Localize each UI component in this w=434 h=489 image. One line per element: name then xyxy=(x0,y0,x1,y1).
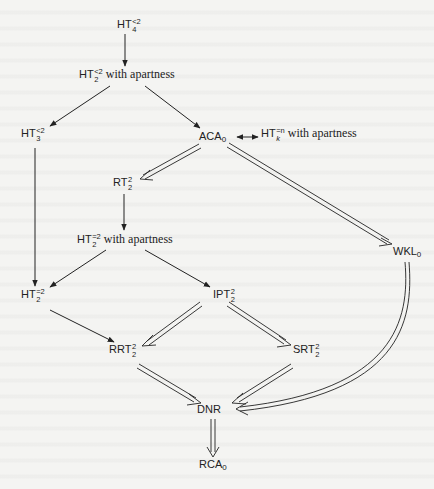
node-supsub: 22 xyxy=(128,176,132,191)
node-sub: 0 xyxy=(417,250,421,259)
node-base: RRT xyxy=(109,344,131,355)
edge-ht2apart-to-ht3 xyxy=(50,86,110,126)
edge-dnr-to-rca0-double xyxy=(207,419,219,457)
node-ht2-eq2: HT=22 xyxy=(21,288,45,303)
node-base: ACA xyxy=(199,131,222,142)
edge-rrt22-to-dnr-double xyxy=(137,364,201,405)
node-base: HT xyxy=(77,234,92,245)
node-ht3-lt2: HT<23 xyxy=(21,127,45,142)
node-supsub: <23 xyxy=(36,127,45,142)
edge-ipt22-to-rrt22-double xyxy=(142,302,202,346)
node-supsub: 22 xyxy=(231,288,235,303)
node-rca0: RCA0 xyxy=(199,459,227,472)
edge-aca0-to-rt22-double xyxy=(140,144,201,180)
node-base: DNR xyxy=(197,404,221,415)
node-dnr: DNR xyxy=(197,404,221,415)
node-sub: 2 xyxy=(315,351,319,359)
node-supsub: =22 xyxy=(92,233,101,248)
node-sub: 0 xyxy=(222,135,226,144)
node-rt22: RT22 xyxy=(113,176,132,191)
edge-wkl0-to-dnr-double-curved xyxy=(236,262,410,415)
node-base: HT xyxy=(79,69,94,80)
node-htk-eqn-with-apartness: HT=nkwith apartness xyxy=(261,127,357,142)
node-supsub: 22 xyxy=(132,343,136,358)
node-aca0: ACA0 xyxy=(199,131,226,144)
node-sub: 3 xyxy=(36,135,45,143)
node-sub: 4 xyxy=(132,26,141,34)
node-base: WKL xyxy=(393,246,417,257)
node-base: HT xyxy=(117,19,132,30)
edge-aca0-to-wkl0-double xyxy=(227,143,392,246)
node-sub: 2 xyxy=(92,241,101,249)
node-supsub: 22 xyxy=(315,343,319,358)
node-supsub: <24 xyxy=(132,18,141,33)
node-sub: k xyxy=(276,135,285,143)
node-ht4-lt2: HT<24 xyxy=(117,18,141,33)
node-suffix: with apartness xyxy=(104,232,173,246)
node-ht2-lt2-with-apartness: HT<22with apartness xyxy=(79,68,175,83)
node-suffix: with apartness xyxy=(106,67,175,81)
edge-srt22-to-dnr-double xyxy=(232,364,293,404)
node-rrt22: RRT22 xyxy=(109,343,136,358)
node-sub: 0 xyxy=(222,463,226,472)
edge-ht22eq-to-rrt22 xyxy=(50,310,114,342)
node-wkl0: WKL0 xyxy=(393,246,421,259)
node-supsub: =nk xyxy=(276,127,285,142)
edge-ht22apart-to-ht22eq xyxy=(50,250,106,287)
node-sub: 2 xyxy=(94,76,103,84)
node-sub: 2 xyxy=(231,296,235,304)
node-base: HT xyxy=(21,289,36,300)
node-base: RT xyxy=(113,177,127,188)
node-supsub: =22 xyxy=(36,288,45,303)
node-sub: 2 xyxy=(128,184,132,192)
node-supsub: <22 xyxy=(94,68,103,83)
edge-ht2apart-to-aca0 xyxy=(145,86,200,128)
node-base: RCA xyxy=(199,459,222,470)
node-base: IPT xyxy=(213,289,230,300)
node-srt22: SRT22 xyxy=(293,343,319,358)
edge-ht22apart-to-ipt22 xyxy=(145,250,210,287)
node-base: HT xyxy=(21,128,36,139)
node-sub: 2 xyxy=(36,296,45,304)
node-ipt22: IPT22 xyxy=(213,288,235,303)
node-sub: 2 xyxy=(132,351,136,359)
node-suffix: with apartness xyxy=(288,126,357,140)
edge-ipt22-to-srt22-double xyxy=(227,302,291,347)
node-base: SRT xyxy=(293,344,315,355)
edges-layer xyxy=(0,0,434,489)
node-base: HT xyxy=(261,128,276,139)
implication-diagram: HT<24 HT<22with apartness HT<23 ACA0 HT=… xyxy=(0,0,434,489)
node-ht2-eq2-with-apartness: HT=22with apartness xyxy=(77,233,173,248)
